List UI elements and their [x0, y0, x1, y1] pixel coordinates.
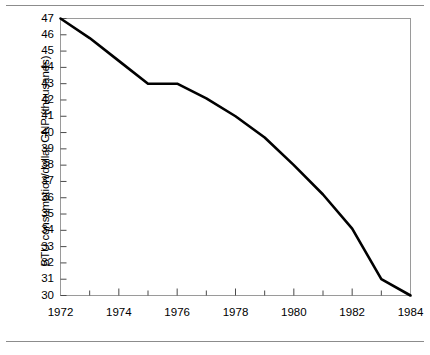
x-tick-label: 1974	[97, 307, 141, 319]
x-tick-label: 1972	[39, 307, 83, 319]
x-tick-label: 1980	[272, 307, 316, 319]
x-tick-label: 1976	[155, 307, 199, 319]
x-tick-label: 1984	[389, 307, 430, 319]
x-tick-label: 1982	[330, 307, 374, 319]
figure: BTU consumption/dollar GNP (thousands) 3…	[0, 0, 430, 355]
chart-plot-area: BTU consumption/dollar GNP (thousands) 3…	[0, 0, 430, 355]
x-axis-tick-labels: 1972197419761978198019821984	[0, 0, 430, 355]
x-tick-label: 1978	[214, 307, 258, 319]
